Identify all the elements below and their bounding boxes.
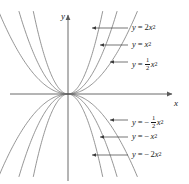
label-equals: = <box>138 40 143 49</box>
fraction-denominator: 2 <box>151 122 156 130</box>
label-lhs: y <box>132 40 136 49</box>
curve-3 <box>0 12 137 94</box>
label-lhs: y <box>132 118 136 127</box>
fraction-one-half: 12 <box>151 115 156 130</box>
label-lhs: y <box>132 60 136 69</box>
x-axis-label: x <box>174 99 178 108</box>
fraction-numerator: 1 <box>151 115 156 122</box>
label-equals: = <box>138 118 143 127</box>
label-lhs: y <box>132 150 136 159</box>
y-axis-label: y <box>61 12 65 21</box>
curve-label-y-eq-neg-half-x2: y=−12x2 <box>132 115 163 130</box>
label-lhs: y <box>132 23 136 32</box>
label-minus-sign: − <box>145 150 150 159</box>
fraction-one-half: 12 <box>145 57 150 72</box>
leader-lines-group <box>92 28 128 155</box>
label-equals: = <box>138 23 143 32</box>
label-equals: = <box>138 60 143 69</box>
label-minus-sign: − <box>145 132 150 141</box>
label-equals: = <box>138 150 143 159</box>
parabola-family-figure: y x y=2x2 y=x2 y=12x2 y=−12x2 y=−x2 y=−2… <box>0 0 189 184</box>
fraction-numerator: 1 <box>145 57 150 64</box>
curve-label-y-eq-neg-x2: y=−x2 <box>132 132 157 141</box>
label-minus-sign: − <box>145 118 150 127</box>
curve-label-y-eq-neg-2x2: y=−2x2 <box>132 150 161 159</box>
fraction-denominator: 2 <box>145 64 150 72</box>
curve-label-y-eq-x2: y=x2 <box>132 40 151 49</box>
label-equals: = <box>138 132 143 141</box>
curve-label-y-eq-half-x2: y=12x2 <box>132 57 158 72</box>
curve-4 <box>0 94 137 176</box>
label-lhs: y <box>132 132 136 141</box>
curve-label-y-eq-2x2: y=2x2 <box>132 23 156 32</box>
